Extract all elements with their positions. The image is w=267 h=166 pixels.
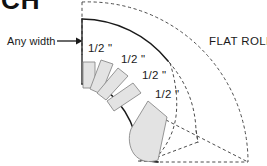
cropped-heading-fragment: CH: [1, 0, 41, 13]
segment-4-width-label: 1/2 ": [155, 89, 179, 101]
segment-2-width-label: 1/2 ": [121, 54, 145, 66]
diagram-illustration: [0, 0, 267, 166]
right-arrow-icon: [57, 37, 83, 44]
flat-roll-label: FLAT ROLL: [209, 36, 267, 48]
flat-roll-radial-edge-outer: [166, 120, 248, 162]
segment-3-width-label: 1/2 ": [142, 70, 166, 82]
any-width-callout-label: Any width: [7, 36, 56, 47]
segment-1-width-label: 1/2 ": [88, 43, 112, 55]
segment-5: [129, 101, 167, 162]
diagram-canvas: CH Any width FLAT ROLL 1/2 " 1/2 " 1/2 "…: [0, 0, 267, 166]
